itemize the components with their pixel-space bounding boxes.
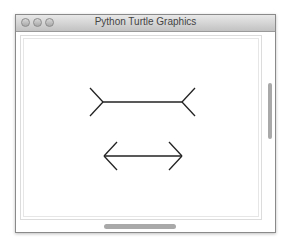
outward-fins-line (90, 88, 195, 116)
double-headed-arrow (104, 142, 182, 170)
turtle-drawing (0, 0, 297, 240)
